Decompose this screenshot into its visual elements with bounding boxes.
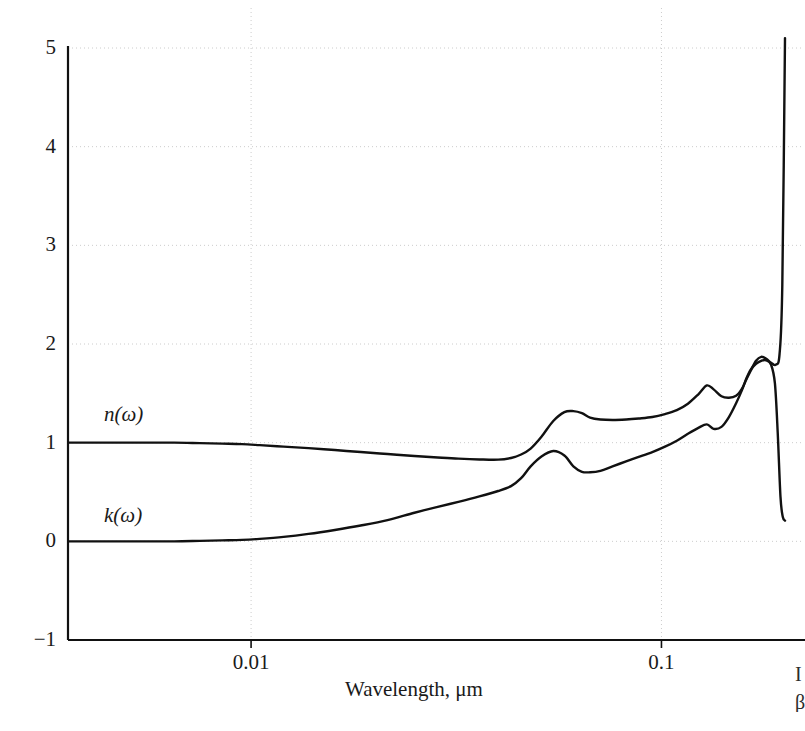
y-axis-tick-label: 5 [12, 37, 56, 58]
y-axis-tick-label: 1 [12, 432, 56, 453]
series-curve-n [68, 38, 785, 460]
y-axis-tick-label: 4 [12, 136, 56, 157]
series-curve-k [68, 360, 785, 541]
x-axis-tick-label: 0.01 [201, 652, 301, 673]
figure-container: 543210−1 0.010.1 Wavelength, μm n(ω) k(ω… [0, 0, 805, 731]
data-series [68, 38, 785, 541]
page-edge-fragment-top: I [795, 664, 805, 684]
gridlines [68, 8, 803, 640]
chart-plot-area [0, 0, 805, 731]
y-axis-tick-label: −1 [12, 629, 56, 650]
page-edge-fragment-bottom: β [795, 692, 805, 712]
series-label-n: n(ω) [104, 404, 143, 425]
axis-ticks [251, 640, 661, 648]
x-axis-title: Wavelength, μm [345, 679, 483, 700]
series-label-k: k(ω) [104, 505, 142, 526]
x-axis-tick-label: 0.1 [611, 652, 711, 673]
y-axis-tick-label: 2 [12, 333, 56, 354]
y-axis-tick-label: 3 [12, 234, 56, 255]
axis-lines [68, 46, 805, 640]
y-axis-tick-label: 0 [12, 530, 56, 551]
